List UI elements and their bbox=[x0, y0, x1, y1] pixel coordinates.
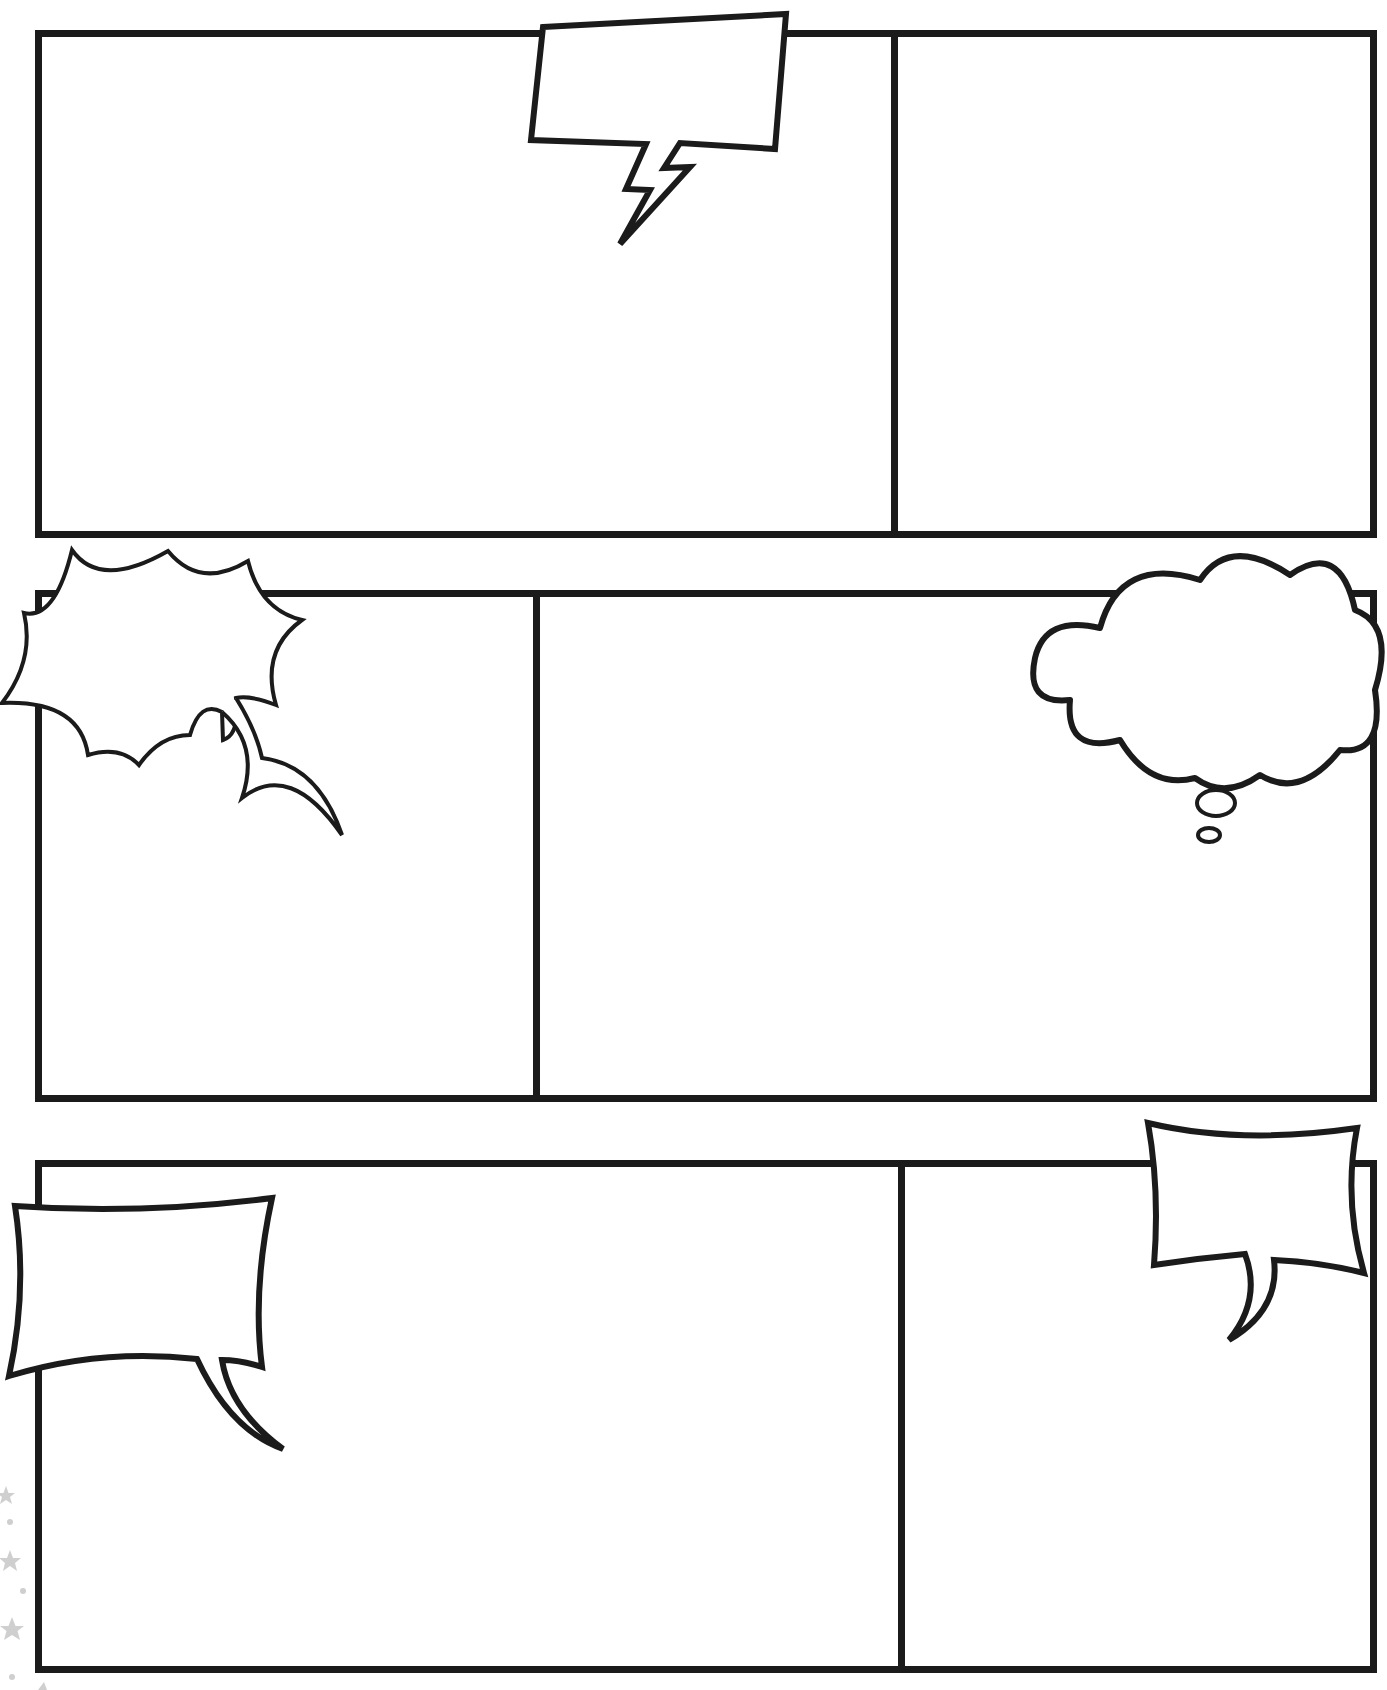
panel-2[interactable] bbox=[891, 30, 1377, 538]
star-icon bbox=[0, 1486, 15, 1504]
panel-1-label bbox=[42, 37, 43, 38]
thought-bubble-dot-small bbox=[1198, 828, 1220, 842]
comic-page bbox=[0, 0, 1387, 1690]
dot-icon bbox=[9, 1674, 15, 1680]
panel-5-label bbox=[42, 1167, 43, 1168]
dot-icon bbox=[7, 1519, 13, 1525]
star-icon bbox=[38, 1682, 47, 1690]
dot-icon bbox=[20, 1588, 26, 1594]
panel-6-label bbox=[905, 1167, 906, 1168]
panel-2-label bbox=[898, 37, 899, 38]
panel-3-label bbox=[42, 597, 43, 598]
panel-4-label bbox=[540, 597, 541, 598]
thought-bubble-dot-large bbox=[1197, 790, 1235, 816]
star-icon bbox=[0, 1617, 24, 1640]
star-icon bbox=[0, 1550, 21, 1571]
